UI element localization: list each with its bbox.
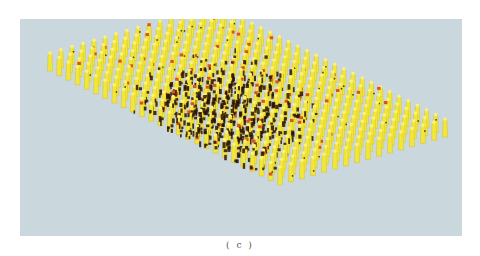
figure-panel — [20, 19, 462, 236]
figure-caption: ( c ) — [0, 240, 480, 250]
isometric-grid-render — [20, 19, 462, 236]
